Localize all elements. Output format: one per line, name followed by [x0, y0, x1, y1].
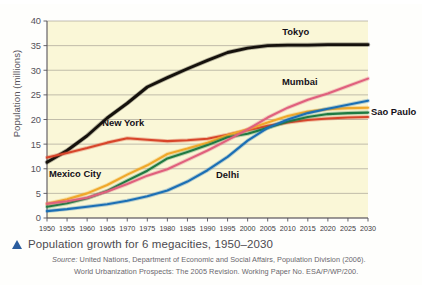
x-tick-label: 2005: [260, 224, 276, 233]
series-label-new-york: New York: [102, 117, 145, 128]
line-chart-svg: 0510152025303540195019551960196519701975…: [0, 0, 422, 232]
x-tick-label: 2025: [340, 224, 356, 233]
y-tick-label: 0: [36, 213, 41, 223]
x-tick-label: 2015: [300, 224, 316, 233]
series-label-tokyo: Tokyo: [282, 26, 309, 37]
x-tick-label: 1955: [59, 224, 75, 233]
x-tick-label: 1970: [119, 224, 135, 233]
source-label: Source:: [52, 255, 78, 264]
y-tick-label: 15: [31, 140, 41, 150]
y-tick-label: 20: [31, 115, 41, 125]
x-tick-label: 2020: [320, 224, 336, 233]
x-tick-label: 1995: [220, 224, 236, 233]
series-label-sao-paulo: Sao Paulo: [371, 106, 417, 117]
y-tick-label: 25: [31, 90, 41, 100]
x-tick-label: 2030: [360, 224, 376, 233]
series-label-delhi: Delhi: [216, 169, 239, 180]
x-tick-label: 1985: [179, 224, 195, 233]
y-tick-label: 35: [31, 41, 41, 51]
y-tick-label: 30: [31, 66, 41, 76]
figure-caption: Population growth for 6 megacities, 1950…: [12, 238, 273, 250]
x-tick-label: 2000: [240, 224, 256, 233]
x-tick-label: 1990: [200, 224, 216, 233]
x-tick-label: 1975: [139, 224, 155, 233]
y-tick-label: 40: [31, 16, 41, 26]
x-tick-label: 2010: [280, 224, 296, 233]
source-line-1: Source: United Nations, Department of Ec…: [52, 255, 366, 264]
chart-plot-area: 0510152025303540195019551960196519701975…: [0, 0, 422, 232]
source-line-1-text: United Nations, Department of Economic a…: [78, 255, 366, 264]
x-tick-label: 1965: [99, 224, 115, 233]
figure-container: 0510152025303540195019551960196519701975…: [0, 0, 422, 285]
figure-caption-text: Population growth for 6 megacities, 1950…: [28, 238, 273, 250]
x-tick-label: 1950: [39, 224, 55, 233]
x-tick-label: 1960: [79, 224, 95, 233]
source-line-2: World Urbanization Prospects: The 2005 R…: [74, 267, 358, 276]
series-label-mexico-city: Mexico City: [49, 168, 102, 179]
y-tick-label: 10: [31, 164, 41, 174]
triangle-bullet-icon: [12, 240, 22, 249]
series-label-mumbai: Mumbai: [282, 76, 317, 87]
y-tick-label: 5: [36, 189, 41, 199]
y-axis-label: Population (millions): [11, 34, 22, 154]
x-tick-label: 1980: [159, 224, 175, 233]
